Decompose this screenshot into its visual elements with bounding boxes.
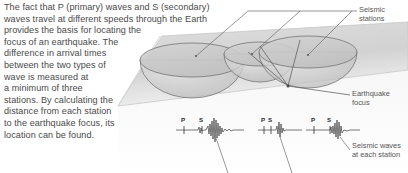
station-point-3 bbox=[307, 54, 309, 56]
caption-line-2: waves travel at different speeds through… bbox=[4, 14, 240, 26]
earthquake-location-figure: The fact that P (primary) waves and S (s… bbox=[0, 0, 408, 173]
caption-line-9: stations. By calculating the bbox=[4, 95, 240, 107]
caption-line-10: distance from each station bbox=[4, 106, 240, 118]
caption-line-12: location can be found. bbox=[4, 130, 240, 142]
figure-caption: The fact that P (primary) waves and S (s… bbox=[4, 2, 240, 141]
caption-line-5: difference in arrival times bbox=[4, 48, 240, 60]
hemisphere-3-rim bbox=[259, 36, 357, 68]
seismogram-1-p-label: P bbox=[181, 117, 185, 124]
caption-line-6: between the two types of bbox=[4, 60, 240, 72]
seismogram-3-p-label: P bbox=[311, 117, 315, 124]
seismogram-2-s-label: S bbox=[268, 117, 272, 124]
earthquake-focus-point bbox=[287, 85, 290, 88]
caption-line-4: focus of an earthquake. The bbox=[4, 37, 240, 49]
seismogram-3-s-label: S bbox=[327, 117, 331, 124]
annotation-seismic-waves: Seismic waves at each station bbox=[352, 142, 401, 159]
caption-line-8: a minimum of three bbox=[4, 83, 240, 95]
caption-line-7: wave is measured at bbox=[4, 72, 240, 84]
caption-line-3: provides the basis for locating the bbox=[4, 25, 240, 37]
caption-line-11: to the earthquake focus, its bbox=[4, 118, 240, 130]
annotation-earthquake-focus: Earthquake focus bbox=[352, 90, 390, 107]
seismogram-1-s-label: S bbox=[199, 117, 203, 124]
annotation-seismic-stations: Seismic stations bbox=[359, 6, 385, 23]
seismogram-2-p-label: P bbox=[261, 117, 265, 124]
caption-line-1: The fact that P (primary) waves and S (s… bbox=[4, 2, 240, 14]
